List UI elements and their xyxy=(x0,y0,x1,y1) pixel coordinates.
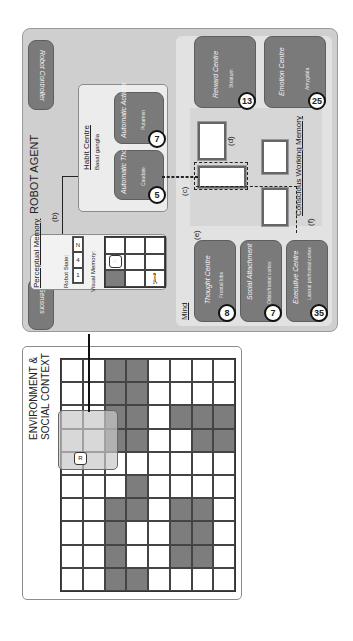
label-f: (f) xyxy=(306,218,315,226)
automatic-thoughts-sub: Caudate xyxy=(140,167,146,186)
robot-view-window xyxy=(58,410,118,470)
env-cell xyxy=(126,521,148,544)
env-cell xyxy=(61,359,83,382)
env-cell xyxy=(126,475,148,498)
robot-icon: R xyxy=(109,255,122,268)
env-cell xyxy=(126,382,148,405)
env-cell xyxy=(148,498,170,521)
env-cell xyxy=(105,568,127,591)
sensors-label: Sensors xyxy=(39,288,46,314)
sensor-input-arrow xyxy=(88,334,90,412)
env-cell xyxy=(61,498,83,521)
wm-card-f2 xyxy=(262,140,288,174)
env-cell xyxy=(213,475,235,498)
env-cell xyxy=(192,405,214,428)
env-cell xyxy=(170,475,192,498)
env-cell xyxy=(192,498,214,521)
env-cell xyxy=(126,452,148,475)
visual-memory-label: Visual Memory: xyxy=(90,251,96,292)
label-b: (b) xyxy=(50,212,59,222)
env-cell xyxy=(192,475,214,498)
automatic-actions-sub: Putamen xyxy=(140,110,146,130)
thought-centre-badge: 8 xyxy=(218,304,236,322)
env-cell xyxy=(170,452,192,475)
environment-title: ENVIRONMENT & SOCIAL CONTEXT xyxy=(28,353,52,440)
env-cell xyxy=(105,545,127,568)
perceptual-memory-title: Perceptual Memory xyxy=(32,219,41,288)
env-cell xyxy=(213,568,235,591)
wm-card-d xyxy=(198,122,226,160)
reward-centre-badge: 13 xyxy=(238,92,256,110)
env-cell xyxy=(170,545,192,568)
env-cell xyxy=(61,521,83,544)
dashed-link-e xyxy=(196,186,297,233)
env-cell xyxy=(61,568,83,591)
env-cell xyxy=(213,382,235,405)
env-cell xyxy=(148,405,170,428)
social-attachment-badge: 7 xyxy=(264,304,282,322)
env-cell xyxy=(170,498,192,521)
env-cell xyxy=(170,568,192,591)
env-cell xyxy=(213,452,235,475)
env-cell xyxy=(83,521,105,544)
env-cell xyxy=(170,359,192,382)
habit-centre-title: Habit Centre xyxy=(82,125,91,170)
env-cell xyxy=(148,382,170,405)
person-icon: 🚶 xyxy=(145,270,165,287)
env-cell xyxy=(148,568,170,591)
env-cell xyxy=(213,498,235,521)
automatic-actions-badge: 7 xyxy=(148,130,166,148)
env-cell xyxy=(105,359,127,382)
env-cell xyxy=(61,475,83,498)
env-cell xyxy=(105,521,127,544)
robot-state-y: 4 xyxy=(73,252,83,267)
env-cell xyxy=(61,545,83,568)
label-d: (d) xyxy=(226,136,235,146)
robot-agent-title: ROBOT AGENT xyxy=(28,135,40,214)
thought-centre-sub: Frontal lobe xyxy=(218,272,224,298)
env-cell xyxy=(213,521,235,544)
social-attachment-label: Social Attachment xyxy=(246,244,253,300)
robot-state-label: Robot State: xyxy=(63,255,69,288)
env-cell xyxy=(213,405,235,428)
env-cell xyxy=(148,521,170,544)
env-cell xyxy=(83,568,105,591)
env-cell xyxy=(126,359,148,382)
env-cell xyxy=(213,429,235,452)
label-e: (e) xyxy=(192,230,201,240)
reward-centre-sub: Striatum xyxy=(228,69,234,88)
env-cell xyxy=(105,475,127,498)
env-cell xyxy=(170,405,192,428)
env-cell xyxy=(192,429,214,452)
env-cell xyxy=(126,405,148,428)
emotion-centre-sub: Amygdala xyxy=(304,68,310,90)
env-cell xyxy=(148,429,170,452)
env-cell xyxy=(148,452,170,475)
thought-centre-label: Thought Centre xyxy=(204,255,211,304)
env-cell xyxy=(83,498,105,521)
env-cell xyxy=(192,568,214,591)
env-cell xyxy=(192,452,214,475)
env-cell xyxy=(148,475,170,498)
dashed-link-c xyxy=(162,176,198,178)
label-c: (c) xyxy=(180,187,189,196)
env-cell xyxy=(148,359,170,382)
emotion-centre-label: Emotion Centre xyxy=(278,47,285,96)
robot-state-heading: N xyxy=(73,237,83,252)
env-cell xyxy=(83,545,105,568)
social-attachment-sub: Orbitofrontal cortex xyxy=(266,261,272,304)
executive-centre-badge: 35 xyxy=(310,304,328,322)
automatic-thoughts-badge: 5 xyxy=(148,186,166,204)
env-cell xyxy=(192,521,214,544)
env-cell xyxy=(148,545,170,568)
visual-memory-grid: R 🚶 xyxy=(104,236,166,288)
habit-centre-subtitle: Basal ganglia xyxy=(94,134,100,170)
env-cell xyxy=(61,382,83,405)
robot-controller-label: Robot Controller xyxy=(39,50,46,101)
connector-b-vertical xyxy=(62,176,63,234)
env-cell xyxy=(192,545,214,568)
env-cell xyxy=(126,568,148,591)
env-cell xyxy=(126,498,148,521)
env-cell xyxy=(213,359,235,382)
mind-title: Mind xyxy=(180,303,189,320)
